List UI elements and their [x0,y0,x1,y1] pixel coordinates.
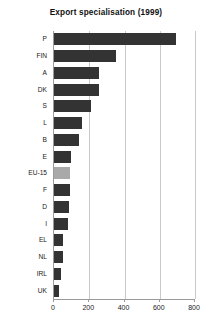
bar-row [54,285,194,297]
bar-row [54,134,194,146]
y-label-uk: UK [0,287,50,295]
export-specialisation-chart: Export specialisation (1999) PFINADKSLBE… [0,0,212,331]
y-axis-category-labels: PFINADKSLBEEU-15FDIELNLIRLUK [0,31,50,299]
bar-row [54,33,194,45]
y-label-dk: DK [0,86,50,94]
y-label-l: L [0,119,50,127]
bar-nl [54,251,63,263]
x-tick-label-0: 0 [33,304,73,311]
bar-l [54,117,82,129]
bar-eu-15 [54,167,70,179]
y-label-p: P [0,35,50,43]
bar-p [54,33,176,45]
x-tick-label-600: 600 [139,304,179,311]
bar-row [54,218,194,230]
chart-title: Export specialisation (1999) [0,8,212,17]
x-tick-400 [124,299,125,302]
bar-e [54,151,71,163]
bar-el [54,234,63,246]
y-label-d: D [0,203,50,211]
gridline-800 [195,31,196,299]
y-label-b: B [0,136,50,144]
x-tick-label-800: 800 [174,304,212,311]
y-label-irl: IRL [0,270,50,278]
x-tick-200 [88,299,89,302]
bar-s [54,100,91,112]
bar-row [54,251,194,263]
y-label-s: S [0,102,50,110]
plot-area [53,31,194,299]
y-label-nl: NL [0,253,50,261]
bar-uk [54,285,59,297]
y-label-a: A [0,69,50,77]
bar-row [54,268,194,280]
bar-irl [54,268,61,280]
bar-dk [54,84,99,96]
x-tick-0 [53,299,54,302]
y-label-f: F [0,186,50,194]
bar-b [54,134,79,146]
bar-i [54,218,68,230]
x-tick-label-200: 200 [68,304,108,311]
y-label-e: E [0,153,50,161]
bar-row [54,100,194,112]
bar-row [54,151,194,163]
bar-row [54,234,194,246]
bar-row [54,67,194,79]
x-tick-600 [159,299,160,302]
bar-series [54,31,194,299]
bar-row [54,84,194,96]
bar-fin [54,50,116,62]
y-label-fin: FIN [0,52,50,60]
bar-a [54,67,99,79]
y-label-el: EL [0,236,50,244]
y-label-eu-15: EU-15 [0,169,50,177]
bar-d [54,201,69,213]
y-label-i: I [0,220,50,228]
x-tick-800 [194,299,195,302]
bar-row [54,50,194,62]
bar-row [54,201,194,213]
bar-row [54,167,194,179]
x-tick-label-400: 400 [104,304,144,311]
bar-row [54,117,194,129]
bar-f [54,184,70,196]
bar-row [54,184,194,196]
